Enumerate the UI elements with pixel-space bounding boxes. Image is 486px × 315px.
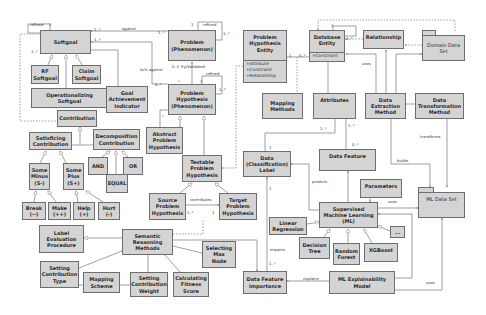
class-abstract-problem-hypothesis[interactable]: Abstract Problem Hypothesis bbox=[146, 127, 183, 154]
class-problem-hypothesis-phenomenon[interactable]: Problem Hypothesis (Phenomenon) bbox=[168, 84, 216, 115]
class-contribution[interactable]: Contribution bbox=[57, 110, 97, 127]
multiplicity: 1 bbox=[191, 22, 193, 27]
class-xgboost[interactable]: XGBoost bbox=[364, 243, 398, 262]
class-setting-contribution-type[interactable]: Setting Contribution Type bbox=[40, 261, 79, 288]
class-label: Problem Hypothesis Entity bbox=[244, 31, 286, 61]
class-rf-softgoal[interactable]: RF Softgoal bbox=[31, 65, 59, 84]
multiplicity: 1 bbox=[289, 53, 291, 58]
class-label: Problem Hypothesis (Phenomenon) bbox=[171, 90, 212, 109]
class-data-transformation-method[interactable]: Data Transformation Method bbox=[415, 93, 464, 119]
edge-label-contributes: contributes bbox=[190, 197, 212, 202]
class-label: Data Transformation Method bbox=[418, 97, 461, 116]
class-label: Hurt (-) bbox=[103, 205, 116, 218]
class-relationship[interactable]: Relationship bbox=[363, 30, 404, 49]
class-testable-problem-hypothesis[interactable]: Testable Problem Hypothesis bbox=[182, 155, 222, 182]
class-label: Contribution bbox=[59, 115, 94, 121]
class-label: Operationalizing Softgoal bbox=[46, 92, 93, 105]
class-other-ml[interactable]: ... bbox=[390, 226, 405, 238]
class-attributes[interactable]: Attributes bbox=[313, 93, 356, 119]
package-domain-data-set[interactable]: Domain Data Set bbox=[422, 35, 465, 61]
multiplicity: 0..* bbox=[299, 53, 306, 58]
class-calculating-fitness-score[interactable]: Calculating Fitness Score bbox=[173, 272, 209, 297]
multiplicity: 2..* bbox=[346, 36, 353, 41]
multiplicity: 1..* bbox=[223, 31, 230, 36]
class-label: Softgoal bbox=[54, 39, 78, 45]
class-label: AND bbox=[92, 163, 104, 169]
class-database-entity[interactable]: Database Entity +Constraint bbox=[309, 30, 345, 62]
edge-label-refined: refined bbox=[203, 22, 216, 27]
edge-label-uses: uses bbox=[426, 280, 435, 285]
class-setting-contribution-weight[interactable]: Setting Contribution Weight bbox=[130, 272, 168, 297]
class-label: Random Forest bbox=[335, 248, 358, 261]
multiplicity: 1..* bbox=[94, 27, 101, 32]
class-label: Goal Achievement Indicator bbox=[109, 90, 146, 109]
edge-label-refined: refined bbox=[206, 71, 219, 76]
class-label: EQUAL bbox=[108, 180, 127, 186]
class-label-evaluation-procedure[interactable]: Label Evaluation Procedure bbox=[39, 225, 84, 253]
class-linear-regression[interactable]: Linear Regression bbox=[269, 217, 307, 235]
class-label: Claim Softgoal bbox=[75, 68, 99, 81]
class-satisficing-contribution[interactable]: Satisficing Contribution bbox=[29, 132, 72, 150]
class-or[interactable]: OR bbox=[123, 157, 143, 175]
class-operationalizing-softgoal[interactable]: Operationalizing Softgoal bbox=[31, 88, 108, 108]
edge-label-uses: uses bbox=[362, 61, 371, 66]
class-some-minus[interactable]: Some Minus (S-) bbox=[29, 163, 50, 190]
class-some-plus[interactable]: Some Plus (S+) bbox=[63, 163, 84, 190]
class-label: Relationship bbox=[366, 34, 401, 40]
class-softgoal[interactable]: Softgoal bbox=[40, 30, 91, 54]
class-help[interactable]: Help (+) bbox=[73, 202, 95, 220]
class-problem-hypothesis-entity[interactable]: Problem Hypothesis Entity +Attribute +Co… bbox=[243, 30, 287, 83]
class-label: Linear Regression bbox=[272, 220, 303, 233]
class-problem-phenomenon[interactable]: Problem (Phenomenon) bbox=[168, 30, 216, 61]
class-source-problem-hypothesis[interactable]: Source Problem Hypothesis bbox=[149, 193, 186, 220]
class-semantic-reasoning-methods[interactable]: Semantic Reasoning Methods bbox=[122, 229, 173, 255]
class-selecting-max-node[interactable]: Selecting Max Node bbox=[202, 241, 236, 268]
class-data-feature[interactable]: Data Feature bbox=[319, 149, 376, 171]
multiplicity: 1 bbox=[269, 186, 271, 191]
class-data-feature-importance[interactable]: Data Feature Importance bbox=[243, 271, 287, 294]
multiplicity: 1 bbox=[269, 145, 271, 150]
edge-label-explains: explains bbox=[303, 276, 319, 281]
edge-label-impacts: impacts bbox=[270, 247, 285, 252]
class-label: Source Problem Hypothesis bbox=[152, 197, 183, 216]
class-goal-achievement-indicator[interactable]: Goal Achievement Indicator bbox=[106, 86, 148, 113]
class-label: Data Extraction Method bbox=[371, 97, 400, 116]
class-label: Abstract Problem Hypothesis bbox=[149, 131, 180, 150]
class-and[interactable]: AND bbox=[88, 157, 108, 175]
class-label: Calculating Fitness Score bbox=[175, 275, 207, 294]
class-label: XGBoost bbox=[369, 247, 393, 253]
class-data-extraction-method[interactable]: Data Extraction Method bbox=[365, 93, 406, 119]
class-break[interactable]: Break (--) bbox=[22, 202, 46, 220]
multiplicity: 1..* bbox=[187, 210, 194, 215]
class-label: Label Evaluation Procedure bbox=[47, 230, 77, 249]
edge-label-uses: uses bbox=[388, 199, 397, 204]
class-claim-softgoal[interactable]: Claim Softgoal bbox=[72, 65, 101, 84]
multiplicity: 1..* bbox=[158, 30, 165, 35]
package-ml-data-set[interactable]: ML Data Set bbox=[418, 192, 465, 218]
class-random-forest[interactable]: Random Forest bbox=[333, 243, 360, 265]
class-supervised-ml[interactable]: Supervised Machine Learning (ML) bbox=[319, 202, 378, 228]
class-make[interactable]: Make (++) bbox=[48, 202, 71, 220]
class-decision-tree[interactable]: Decision Tree bbox=[299, 237, 330, 259]
class-parameters[interactable]: Parameters bbox=[360, 179, 402, 198]
class-target-problem-hypothesis[interactable]: Target Problem Hypothesis bbox=[219, 193, 257, 220]
class-label: ML Data Set bbox=[426, 196, 456, 202]
class-label: RF Softgoal bbox=[33, 68, 57, 81]
edge-label-refined: refined bbox=[30, 22, 43, 27]
class-mapping-methods[interactable]: Mapping Methods bbox=[262, 93, 303, 119]
multiplicity: 1..* bbox=[269, 261, 276, 266]
class-label: Problem (Phenomenon) bbox=[171, 39, 212, 52]
class-ml-explainability-model[interactable]: ML Explainability Model bbox=[329, 271, 395, 294]
class-hurt[interactable]: Hurt (-) bbox=[98, 202, 120, 220]
class-data-classification-label[interactable]: Data (Classification) Label bbox=[243, 151, 291, 177]
class-label: Help (+) bbox=[78, 205, 91, 218]
class-mapping-scheme[interactable]: Mapping Scheme bbox=[83, 272, 120, 293]
multiplicity: 1..* bbox=[94, 37, 101, 42]
multiplicity: 1..* bbox=[219, 87, 226, 92]
class-label: Attributes bbox=[320, 97, 349, 103]
multiplicity: 1 bbox=[200, 79, 202, 84]
class-decomposition-contribution[interactable]: Decomposition Contribution bbox=[93, 129, 140, 150]
class-label: ... bbox=[395, 229, 401, 235]
edge-label-builds: builds bbox=[397, 158, 408, 163]
class-equal[interactable]: EQUAL bbox=[106, 174, 128, 193]
